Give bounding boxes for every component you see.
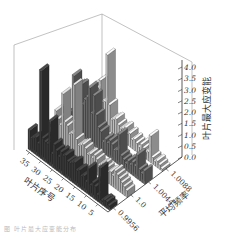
bar — [118, 178, 120, 193]
z-tick — [178, 123, 182, 125]
bar — [71, 162, 73, 183]
x-tick — [62, 178, 64, 180]
bar — [149, 135, 151, 163]
z-tick-label: 2.5 — [183, 97, 196, 106]
bar — [141, 173, 143, 183]
bar — [92, 182, 94, 199]
x-tick — [50, 170, 52, 172]
bar — [95, 114, 97, 148]
x-tick — [39, 161, 41, 163]
z-tick — [178, 101, 182, 103]
z-tick — [178, 78, 182, 80]
x-tick-label: 5 — [87, 208, 96, 218]
z-tick — [178, 112, 182, 114]
figure-caption: 图 叶片最大应变能分布 — [4, 224, 228, 232]
bar — [104, 138, 106, 155]
bar — [35, 136, 37, 155]
bar — [143, 170, 145, 185]
bar — [134, 165, 136, 177]
bar — [78, 169, 80, 188]
bar — [60, 151, 62, 174]
bar — [76, 170, 78, 187]
bar — [44, 141, 46, 162]
bar — [121, 182, 123, 194]
bar — [118, 133, 120, 165]
z-tick-label: 3.0 — [184, 86, 196, 95]
bar — [33, 137, 35, 154]
z-tick-label: 4.0 — [183, 63, 196, 72]
bar — [123, 186, 125, 196]
bar — [28, 129, 30, 150]
x-tick — [27, 153, 29, 155]
bar — [53, 144, 55, 170]
bar — [97, 127, 99, 150]
bar — [106, 54, 108, 130]
bar — [73, 84, 75, 158]
y-tick-label: 1.0088 — [169, 169, 194, 194]
z-tick-label: 3.5 — [184, 74, 196, 83]
bar — [42, 137, 44, 160]
bar — [64, 154, 66, 177]
bar — [90, 184, 92, 196]
bar — [83, 175, 85, 192]
bar — [113, 150, 115, 162]
bar — [110, 119, 112, 133]
bar — [85, 181, 87, 193]
bar — [127, 160, 129, 172]
z-axis-ticks: 0.00.51.01.52.02.53.03.54.0 — [178, 63, 196, 162]
z-tick-label: 1.0 — [184, 131, 196, 140]
y-tick — [148, 182, 151, 184]
x-tick — [96, 204, 98, 206]
y-tick — [166, 169, 169, 171]
y-tick — [113, 208, 116, 210]
bar — [37, 143, 39, 158]
z-tick — [178, 67, 182, 69]
bar — [138, 169, 140, 181]
x-tick-label: 15 — [64, 190, 77, 203]
x-tick-label: 35 — [18, 156, 31, 169]
x-tick-label: 20 — [52, 182, 65, 195]
bar — [116, 149, 118, 164]
bar — [113, 118, 115, 135]
y-tick-label: 1.0 — [133, 195, 148, 210]
bar — [51, 153, 53, 168]
x-tick — [84, 196, 86, 198]
z-tick-label: 2.0 — [183, 108, 196, 117]
bar — [111, 144, 113, 161]
bar — [114, 170, 116, 189]
bar — [39, 70, 41, 159]
bar — [69, 162, 71, 181]
bar — [109, 140, 111, 159]
bar — [46, 143, 48, 164]
bar — [131, 139, 133, 149]
bar — [112, 175, 114, 187]
bar — [133, 138, 135, 150]
bar — [55, 150, 57, 171]
bar — [58, 156, 60, 173]
z-tick-label: 0.0 — [184, 153, 196, 162]
z-tick — [178, 90, 182, 92]
z-tick — [178, 146, 182, 148]
z-tick — [178, 135, 182, 137]
x-tick-label: 30 — [30, 165, 43, 178]
x-tick — [73, 187, 75, 189]
bar — [88, 87, 90, 143]
z-axis-label: 叶片最大应变能 — [201, 77, 212, 140]
bar — [99, 167, 101, 204]
bar — [136, 154, 138, 180]
bar — [86, 96, 88, 141]
bar — [49, 120, 51, 165]
bar3d-chart: 5101520253035 0.99561.01.00441.0088 0.00… — [0, 0, 232, 235]
bar — [109, 171, 111, 186]
bar-series — [28, 48, 170, 211]
z-tick-label: 0.5 — [184, 142, 196, 151]
bar — [87, 167, 89, 195]
x-tick-label: 25 — [41, 173, 54, 186]
y-tick — [131, 195, 134, 197]
bar — [116, 174, 118, 191]
x-tick-label: 10 — [75, 199, 88, 212]
bar — [106, 142, 108, 157]
bar — [67, 161, 69, 180]
bar — [94, 186, 96, 201]
bar — [132, 161, 134, 176]
